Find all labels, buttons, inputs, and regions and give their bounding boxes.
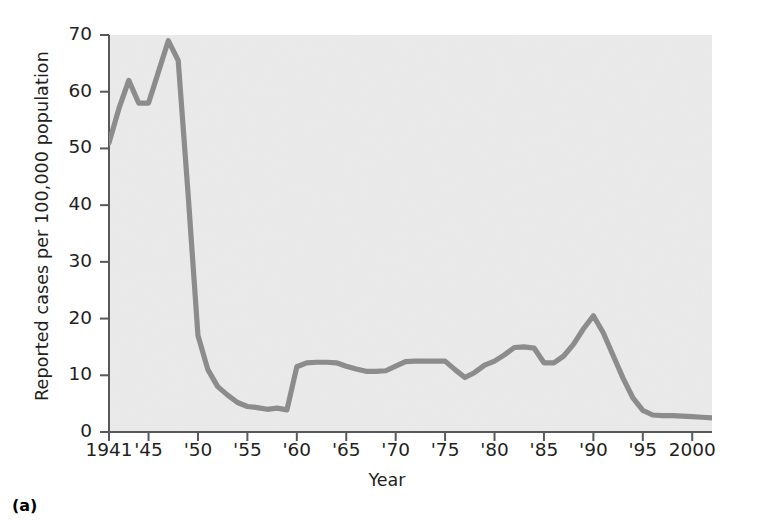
x-tick-label: '60	[282, 441, 311, 460]
x-tick-label: '45	[134, 441, 163, 460]
x-axis-title: Year	[0, 470, 760, 490]
x-tick-label: 1941	[85, 441, 132, 460]
figure-panel-a: Reported cases per 100,000 population 70…	[0, 0, 760, 529]
x-tick-label: '55	[233, 441, 262, 460]
x-axis-tick-labels: 1941'45'50'55'60'65'70'75'80'85'90'95200…	[0, 0, 760, 529]
x-tick-label: '50	[184, 441, 213, 460]
x-tick-label: '80	[480, 441, 509, 460]
figure-caption: (a)	[12, 496, 37, 515]
x-tick-label: 2000	[669, 441, 716, 460]
x-axis-title-text: Year	[368, 470, 405, 490]
x-tick-label: '95	[628, 441, 657, 460]
x-tick-label: '75	[431, 441, 460, 460]
x-tick-label: '85	[530, 441, 559, 460]
x-tick-label: '90	[579, 441, 608, 460]
x-tick-label: '65	[332, 441, 361, 460]
x-tick-label: '70	[381, 441, 410, 460]
